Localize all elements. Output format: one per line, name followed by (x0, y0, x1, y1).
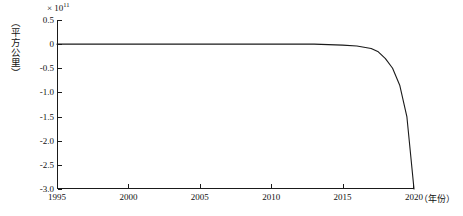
y-axis-tick-label-group: 0.50-0.5-1.0-1.5-2.0-2.5-3.0 (18, 20, 54, 189)
x-axis-tick (413, 184, 414, 188)
chart-figure: （平方公里） × 1011 0.50-0.5-1.0-1.5-2.0-2.5-3… (0, 0, 463, 216)
y-axis-tick-label: 0.5 (43, 15, 54, 25)
y-axis-tick-label: -1.0 (40, 87, 54, 97)
y-axis-tick (58, 141, 62, 142)
y-axis-tick (58, 20, 62, 21)
y-axis-tick (58, 165, 62, 166)
y-axis-tick-label: -1.5 (40, 112, 54, 122)
y-axis-tick-label: -0.5 (40, 63, 54, 73)
x-axis-tick-label: 2000 (119, 192, 137, 202)
x-axis-tick-label: 1995 (48, 192, 66, 202)
x-axis-tick (200, 184, 201, 188)
x-axis-tick (271, 184, 272, 188)
series-path (57, 44, 414, 189)
y-axis-tick (58, 92, 62, 93)
y-axis-tick-label: -2.5 (40, 160, 54, 170)
x-axis-tick (343, 184, 344, 188)
y-axis-exponent-label: × 1011 (47, 1, 70, 13)
data-series-line (57, 20, 414, 189)
y-axis-exponent-power: 11 (63, 1, 69, 8)
y-axis-exponent-base: × 10 (47, 3, 63, 13)
y-axis-tick (58, 68, 62, 69)
y-axis-tick-label: -2.0 (40, 136, 54, 146)
x-axis-title: （年份） (419, 192, 455, 205)
plot-area: 199520002005201020152020 (57, 20, 414, 189)
x-axis-tick-label: 2010 (262, 192, 280, 202)
x-axis-tick-label: 2015 (334, 192, 352, 202)
x-axis-tick-label: 2005 (191, 192, 209, 202)
y-axis-tick (58, 117, 62, 118)
x-axis-tick (128, 184, 129, 188)
y-axis-tick (58, 44, 62, 45)
x-axis-tick (57, 184, 58, 188)
y-axis-tick (58, 189, 62, 190)
y-axis-tick-label: 0 (50, 39, 55, 49)
